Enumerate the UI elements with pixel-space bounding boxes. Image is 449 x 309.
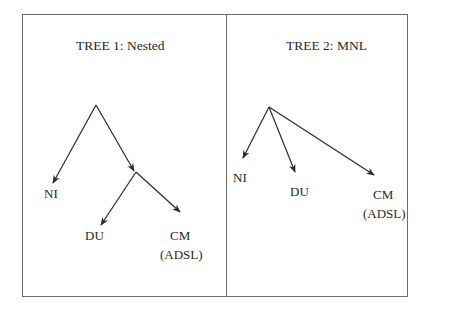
tree2-edge-root-cm: [269, 107, 374, 175]
tree1-node-du: DU: [85, 228, 104, 244]
tree2-title: TREE 2: MNL: [286, 38, 367, 54]
tree1-edge-root-nest: [96, 105, 134, 171]
tree1-title: TREE 1: Nested: [76, 38, 164, 54]
tree2-edge-root-ni: [243, 107, 269, 158]
tree2-node-ni: NI: [233, 170, 247, 186]
tree2-node-cm-sub: (ADSL): [363, 206, 406, 222]
tree1-node-ni: NI: [44, 186, 58, 202]
tree2-node-cm: CM: [373, 187, 393, 203]
tree1-edge-nest-du: [101, 172, 136, 225]
tree1-edge-root-ni: [53, 105, 96, 183]
tree-edges: [0, 0, 449, 309]
tree2-edge-root-du: [269, 107, 295, 172]
tree1-node-cm-sub: (ADSL): [160, 247, 203, 263]
tree2-node-du: DU: [290, 184, 309, 200]
tree1-edge-nest-cm: [136, 172, 180, 212]
tree1-node-cm: CM: [170, 228, 190, 244]
